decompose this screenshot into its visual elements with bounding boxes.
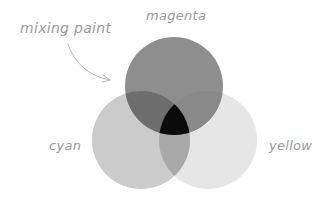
- arrow-icon: [68, 44, 110, 82]
- yellow-label: yellow: [269, 138, 312, 153]
- magenta-label: magenta: [146, 8, 206, 23]
- cyan-label: cyan: [49, 138, 81, 153]
- annotation-label: mixing paint: [20, 20, 111, 36]
